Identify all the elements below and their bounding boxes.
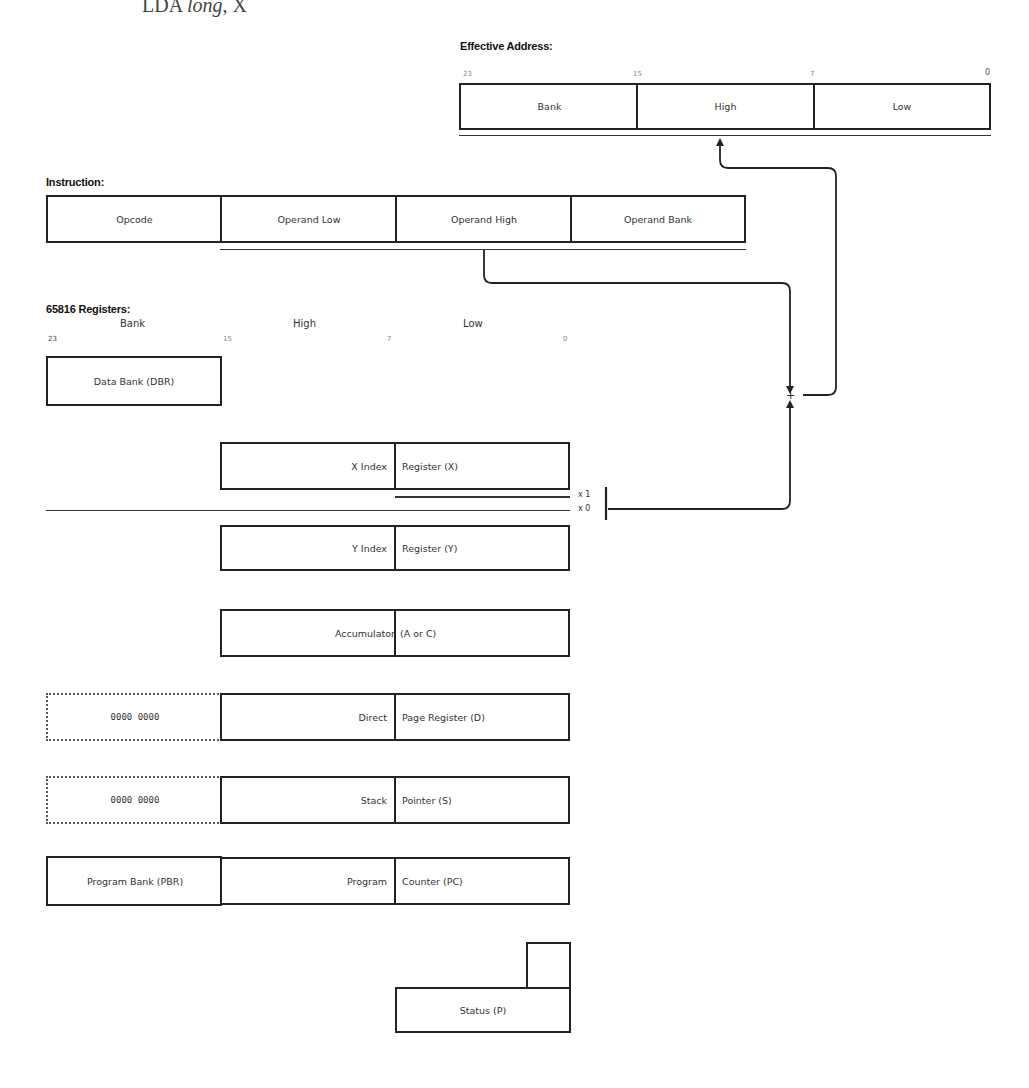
adder-symbol: + xyxy=(786,389,795,402)
operand-to-adder-wire xyxy=(484,250,790,388)
adder-to-ea-wire xyxy=(720,143,836,395)
arrow-up-into-ea xyxy=(716,138,724,146)
data-flow-wires: + xyxy=(0,0,1029,1088)
index-to-adder-wire xyxy=(608,405,790,509)
arrowheads xyxy=(716,138,794,408)
